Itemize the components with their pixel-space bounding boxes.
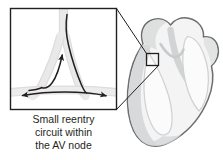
av-nodal-reentry-figure: Small reentry circuit within the AV node [0, 0, 223, 160]
caption-line-3: the AV node [35, 139, 92, 151]
av-node-magnified-inset [8, 6, 119, 110]
illustration-canvas: Small reentry circuit within the AV node [0, 0, 223, 160]
caption: Small reentry circuit within the AV node [33, 113, 96, 151]
caption-line-1: Small reentry [33, 113, 96, 125]
caption-line-2: circuit within [35, 126, 92, 138]
heart-silhouette [127, 18, 218, 146]
